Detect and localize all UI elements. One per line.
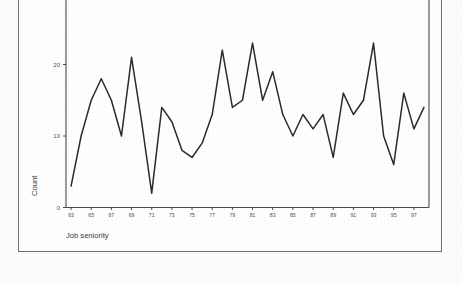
x-tick-label: 69 [129, 212, 135, 218]
line-chart: 0102030 63656769717375777981838587899193… [0, 0, 462, 284]
count-series-line [71, 43, 424, 193]
x-tick-label: 77 [209, 212, 215, 218]
x-tick-label: 85 [290, 212, 296, 218]
x-tick-label: 81 [250, 212, 256, 218]
x-tick-label: 87 [310, 212, 316, 218]
x-tick-label: 65 [88, 212, 94, 218]
plot-frame [66, 0, 429, 208]
y-tick-label: 20 [53, 62, 60, 68]
x-tick-label: 97 [411, 212, 417, 218]
x-tick-label: 73 [169, 212, 175, 218]
x-tick-label: 79 [229, 212, 235, 218]
chart-svg: 0102030 63656769717375777981838587899193… [0, 0, 462, 284]
x-tick-group: 636567697173757779818385878991939597 [68, 208, 417, 219]
x-tick-label: 83 [270, 212, 276, 218]
x-axis-title: Job seniority [66, 231, 109, 240]
x-tick-label: 93 [371, 212, 377, 218]
y-tick-label: 10 [53, 133, 60, 139]
x-tick-label: 67 [108, 212, 114, 218]
x-tick-label: 91 [350, 212, 356, 218]
x-tick-label: 75 [189, 212, 195, 218]
y-axis-title: Count [30, 175, 39, 196]
y-tick-group: 0102030 [53, 0, 66, 211]
x-tick-label: 71 [149, 212, 155, 218]
x-tick-label: 89 [330, 212, 336, 218]
x-tick-label: 95 [391, 212, 397, 218]
y-tick-label: 0 [57, 205, 61, 211]
x-tick-label: 63 [68, 212, 74, 218]
